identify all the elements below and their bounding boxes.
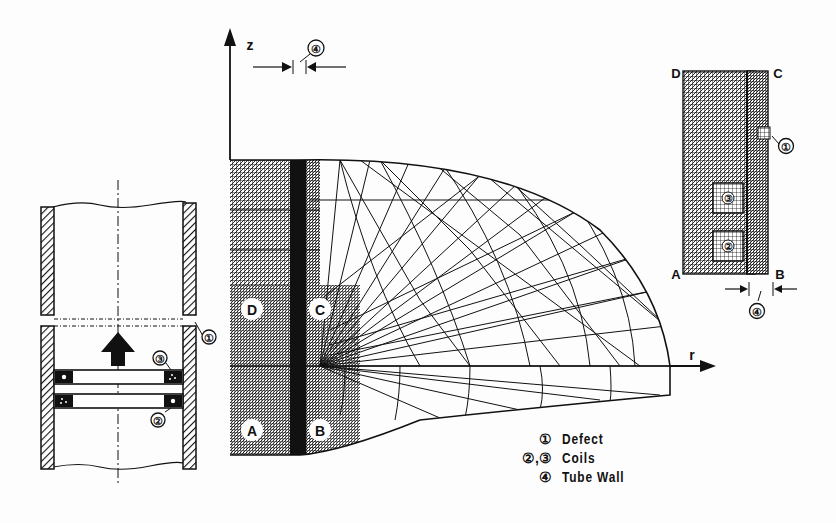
- callout-defect-label: ①: [204, 332, 214, 344]
- tube-section: ① ③ ②: [41, 180, 216, 485]
- corner-B-label: B: [315, 423, 325, 439]
- svg-text:②: ②: [724, 241, 733, 252]
- legend-label: Coils: [562, 449, 595, 468]
- coil-lower: [54, 394, 183, 408]
- break-line-bottom: [53, 462, 186, 469]
- fe-mesh: D C A B z r ④: [224, 28, 716, 460]
- tube-wall-left-lower: [41, 326, 54, 469]
- svg-text:③: ③: [724, 193, 733, 204]
- svg-text:②: ②: [153, 415, 163, 427]
- detail-corner-A: A: [671, 267, 681, 282]
- legend-label: Defect: [562, 430, 603, 449]
- legend: ① Defect ②,③ Coils ④ Tube Wall: [488, 430, 636, 487]
- figure-canvas: ① ③ ②: [0, 0, 836, 523]
- legend-item-defect: ① Defect: [488, 430, 636, 449]
- legend-key: ②,③: [488, 449, 562, 468]
- tube-wall-right-lower: [183, 326, 196, 469]
- svg-text:①: ①: [781, 141, 791, 153]
- corner-A-label: A: [247, 423, 257, 439]
- tube-wall-right-upper: [183, 203, 196, 315]
- legend-item-tube-wall: ④ Tube Wall: [488, 468, 636, 487]
- z-axis-label: z: [247, 37, 254, 53]
- corner-D-label: D: [247, 302, 257, 318]
- svg-text:④: ④: [752, 306, 762, 318]
- detail-corner-D: D: [671, 66, 680, 81]
- detail-defect-cell: [758, 127, 770, 139]
- legend-key: ④: [488, 468, 562, 487]
- break-line-top: [53, 201, 186, 207]
- detail-inset: ③ ② D C A B ① ④: [671, 66, 797, 319]
- probe-direction-arrow-icon: [101, 332, 135, 366]
- legend-key: ①: [488, 430, 562, 449]
- legend-item-coils: ②,③ Coils: [488, 449, 636, 468]
- svg-text:④: ④: [311, 43, 321, 55]
- detail-corner-B: B: [775, 267, 784, 282]
- r-axis-arrow-icon: [700, 360, 716, 372]
- z-axis-arrow-icon: [224, 28, 236, 46]
- svg-text:③: ③: [155, 353, 165, 365]
- corner-C-label: C: [315, 302, 325, 318]
- r-axis-label: r: [689, 347, 695, 363]
- coil-upper: [54, 370, 183, 384]
- tube-wall-left-upper: [41, 207, 54, 315]
- detail-corner-C: C: [773, 66, 783, 81]
- legend-label: Tube Wall: [562, 468, 625, 487]
